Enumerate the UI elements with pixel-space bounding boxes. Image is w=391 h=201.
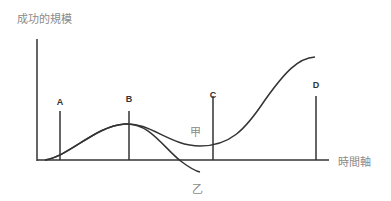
- marker-label-b: B: [126, 94, 133, 104]
- curve-label-jia: 甲: [190, 123, 201, 139]
- marker-label-d: D: [313, 80, 320, 90]
- curve-jia: [45, 57, 315, 160]
- curve-label-yi: 乙: [192, 180, 203, 196]
- marker-label-a: A: [57, 97, 64, 107]
- marker-label-c: C: [210, 90, 217, 100]
- curve-yi: [45, 124, 200, 172]
- y-axis-label: 成功的規模: [17, 10, 72, 26]
- x-axis-label: 時間軸: [338, 153, 371, 169]
